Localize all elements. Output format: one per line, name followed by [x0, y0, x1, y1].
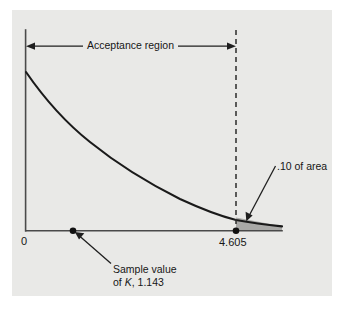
sample-value-point-marker [70, 228, 77, 235]
sample-value-line-1: Sample value [113, 263, 177, 275]
tail-area-arrow-head [246, 212, 253, 221]
tail-area-leader-line [250, 166, 276, 215]
x-axis-tick-label-critical-value: 4.605 [219, 236, 247, 249]
sample-value-line-2-suffix: , 1.143 [132, 276, 164, 288]
sample-value-k-symbol: K [125, 276, 132, 288]
tail-area-label: .10 of area [277, 160, 327, 173]
sample-value-line-2-prefix: of [113, 276, 125, 288]
sample-value-annotation: Sample value of K, 1.143 [113, 263, 177, 289]
density-curve [26, 72, 282, 226]
sample-value-leader-line [80, 236, 112, 264]
acceptance-region-arrow-head-right [227, 43, 236, 50]
acceptance-region-arrow-head-left [26, 43, 35, 50]
acceptance-region-label: Acceptance region [83, 39, 178, 52]
figure-container: Acceptance region .10 of area 0 4.605 Sa… [0, 0, 344, 312]
x-axis-tick-label-origin: 0 [21, 235, 27, 248]
critical-value-point-marker [233, 228, 240, 235]
